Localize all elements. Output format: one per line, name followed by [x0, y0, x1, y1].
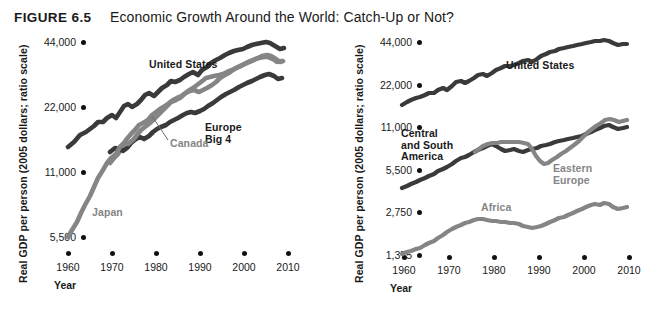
x-tick-left-1: 1970: [94, 261, 130, 273]
series-label-eastern-europe: Eastern Europe: [553, 163, 592, 186]
plot-area-left: United States Europe Big 4 Canada Japan: [0, 30, 340, 255]
x-tick-left-4: 2000: [226, 261, 262, 273]
series-label-united-states: United States: [506, 60, 574, 72]
series-label-eastern-europe-line1: Eastern: [553, 163, 592, 175]
series-label-eastern-europe-line2: Europe: [553, 175, 592, 187]
x-tick-right-0: 1960: [386, 264, 422, 276]
x-tick-left-5: 2010: [270, 261, 306, 273]
x-axis-title-left: Year: [54, 279, 76, 291]
series-label-africa: Africa: [481, 202, 511, 214]
series-line-united-states: [402, 40, 627, 105]
x-tick-right-2: 1980: [476, 264, 512, 276]
figure-title: Economic Growth Around the World: Catch-…: [110, 9, 454, 25]
x-tick-left-2: 1980: [138, 261, 174, 273]
x-tick-left-0: 1960: [50, 261, 86, 273]
x-tick-left-3: 1990: [182, 261, 218, 273]
series-lines-right: [340, 30, 663, 260]
x-tick-right-5: 2010: [611, 264, 647, 276]
canada-leader-line: [0, 30, 340, 255]
chart-panel-right: Real GDP per person (2005 dollars; ratio…: [340, 30, 663, 309]
chart-panel-left: Real GDP per person (2005 dollars; ratio…: [0, 30, 340, 309]
series-label-central-and-south-america-line3: America: [401, 151, 453, 163]
figure-container: FIGURE 6.5 Economic Growth Around the Wo…: [0, 0, 663, 309]
x-tick-right-4: 2000: [566, 264, 602, 276]
series-label-central-and-south-america-line1: Central: [401, 128, 453, 140]
plot-area-right: United States Central and South America …: [340, 30, 663, 260]
x-tick-right-1: 1970: [431, 264, 467, 276]
series-label-japan: Japan: [92, 207, 123, 219]
figure-header: FIGURE 6.5 Economic Growth Around the Wo…: [14, 8, 454, 26]
x-axis-title-right: Year: [390, 282, 412, 294]
series-line-africa: [402, 203, 627, 254]
x-tick-right-3: 1990: [521, 264, 557, 276]
series-label-central-and-south-america: Central and South America: [401, 128, 453, 163]
